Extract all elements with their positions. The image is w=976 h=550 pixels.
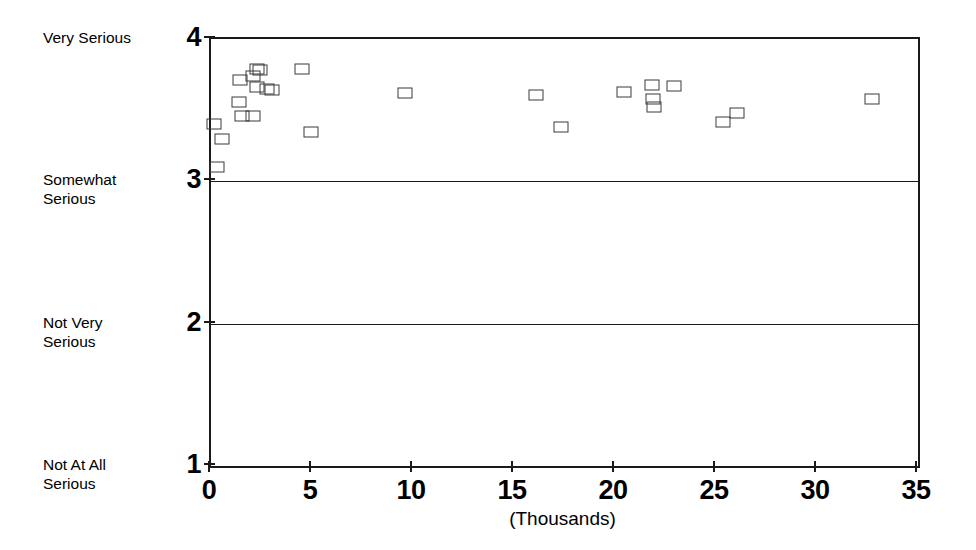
x-tick-mark-5 xyxy=(309,461,311,472)
x-tick-mark-30 xyxy=(814,461,816,472)
y-tick-label-4: 4 xyxy=(175,24,201,51)
y-category-label-line: Not At All xyxy=(43,455,188,474)
data-point xyxy=(294,63,309,74)
y-category-label: SomewhatSerious xyxy=(43,170,188,208)
data-point xyxy=(207,119,222,130)
data-point xyxy=(529,89,544,100)
y-category-label: Not VerySerious xyxy=(43,313,188,351)
x-tick-mark-0 xyxy=(208,461,210,472)
data-point xyxy=(246,110,261,121)
x-tick-label-30: 30 xyxy=(800,477,829,504)
data-point xyxy=(232,96,247,107)
y-category-label-line: Serious xyxy=(43,474,188,493)
x-axis-title: (Thousands) xyxy=(209,508,916,530)
y-tick-label-3: 3 xyxy=(175,166,201,193)
data-point xyxy=(554,122,569,133)
data-point xyxy=(666,80,681,91)
data-point xyxy=(647,102,662,113)
y-category-label-line: Very Serious xyxy=(43,28,188,47)
y-tick-label-2: 2 xyxy=(175,308,201,335)
x-tick-label-20: 20 xyxy=(598,477,627,504)
data-point xyxy=(264,85,279,96)
x-tick-label-0: 0 xyxy=(202,477,217,504)
scatter-chart: Very SeriousSomewhatSeriousNot VerySerio… xyxy=(0,0,976,550)
data-point xyxy=(215,133,230,144)
x-tick-label-25: 25 xyxy=(699,477,728,504)
plot-area xyxy=(209,37,920,468)
y-category-label-line: Not Very xyxy=(43,313,188,332)
x-tick-label-5: 5 xyxy=(303,477,318,504)
x-tick-mark-20 xyxy=(612,461,614,472)
x-tick-mark-35 xyxy=(915,461,917,472)
x-tick-label-10: 10 xyxy=(396,477,425,504)
data-point xyxy=(864,93,879,104)
data-point xyxy=(253,65,268,76)
x-tick-mark-10 xyxy=(410,461,412,472)
gridline-y-3 xyxy=(211,181,918,182)
y-category-label-line: Somewhat xyxy=(43,170,188,189)
data-point xyxy=(210,162,225,173)
x-tick-mark-25 xyxy=(713,461,715,472)
y-category-label-line: Serious xyxy=(43,332,188,351)
data-point xyxy=(617,86,632,97)
data-point xyxy=(716,116,731,127)
x-tick-label-35: 35 xyxy=(901,477,930,504)
y-tick-label-1: 1 xyxy=(175,451,201,478)
y-category-label: Not At AllSerious xyxy=(43,455,188,493)
y-category-label-line: Serious xyxy=(43,189,188,208)
x-tick-label-15: 15 xyxy=(497,477,526,504)
y-category-label: Very Serious xyxy=(43,28,188,47)
data-point xyxy=(645,79,660,90)
data-point xyxy=(730,108,745,119)
gridline-y-2 xyxy=(211,324,918,325)
data-point xyxy=(303,126,318,137)
x-tick-mark-15 xyxy=(511,461,513,472)
data-point xyxy=(397,88,412,99)
